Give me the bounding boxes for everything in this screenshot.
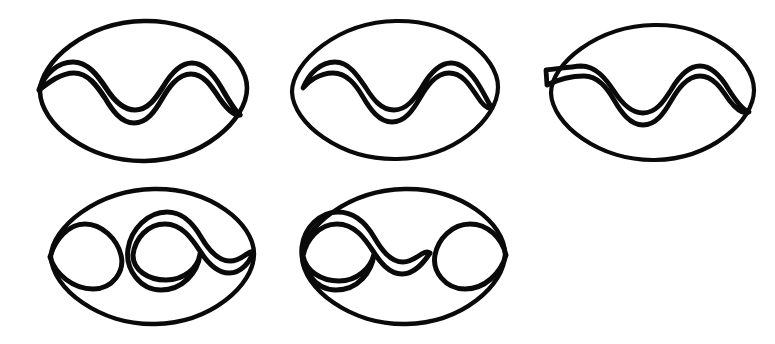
- diagram-canvas: [0, 0, 775, 344]
- canvas-background: [0, 0, 775, 344]
